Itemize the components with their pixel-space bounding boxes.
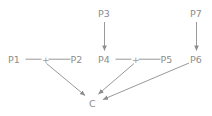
connector-p6-to-c <box>103 63 189 100</box>
node-label-p2: P2 <box>71 54 83 65</box>
node-label-p6: P6 <box>190 54 202 65</box>
node-label-p1: P1 <box>8 54 20 65</box>
node-label-p5: P5 <box>161 54 173 65</box>
node-label-p3: P3 <box>98 8 110 19</box>
diagram-svg: P1 P2 P3 P4 P5 P6 P7 C + + <box>0 0 212 116</box>
node-label-p7: P7 <box>190 8 202 19</box>
path-diagram-canvas: P1 P2 P3 P4 P5 P6 P7 C + + <box>0 0 212 116</box>
node-label-c: C <box>89 98 96 109</box>
operator-plus-left: + <box>42 55 50 65</box>
connector-plus-left-to-c <box>47 64 86 96</box>
connector-plus-right-to-c <box>99 64 135 95</box>
operator-plus-right: + <box>132 55 140 65</box>
node-label-p4: P4 <box>98 54 110 65</box>
